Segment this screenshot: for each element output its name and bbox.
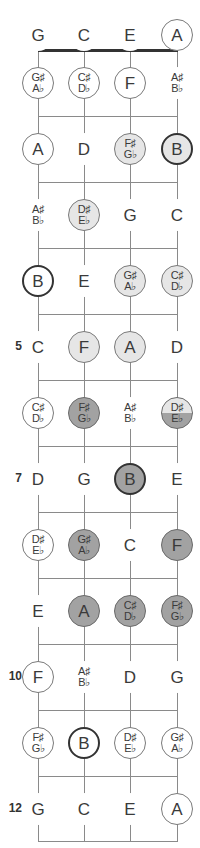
fret-line-8 xyxy=(38,578,178,579)
note-marker-fret0-string-A: A xyxy=(161,19,193,51)
note-label: E xyxy=(124,27,135,44)
note-label: E xyxy=(171,471,182,488)
note-marker-fret12-string-E: E xyxy=(114,793,146,825)
note-flat-label: E♭ xyxy=(32,545,43,556)
note-label: A xyxy=(78,603,89,620)
note-marker-fret10-string-A: G xyxy=(161,661,193,693)
note-flat-label: D♭ xyxy=(171,281,183,292)
note-marker-fret11-string-A: G♯A♭ xyxy=(161,727,193,759)
note-flat-label: B♭ xyxy=(124,413,135,424)
note-label: C xyxy=(124,537,136,554)
note-flat-label: D♭ xyxy=(124,611,136,622)
fret-line-12 xyxy=(38,841,178,842)
note-label: D xyxy=(171,339,183,356)
note-label: G xyxy=(31,801,44,818)
note-marker-fret5-string-G: C xyxy=(22,331,54,363)
note-marker-fret7-string-C: G xyxy=(68,463,100,495)
fretboard-diagram: 571012GCEAG♯A♭C♯D♭FA♯B♭ADF♯G♭BA♯B♭D♯E♭GC… xyxy=(0,0,200,848)
fret-line-3 xyxy=(38,248,178,249)
note-flat-label: A♭ xyxy=(78,545,89,556)
fret-line-5 xyxy=(38,380,178,381)
note-marker-fret12-string-G: G xyxy=(22,793,54,825)
note-flat-label: D♭ xyxy=(32,413,44,424)
note-marker-fret6-string-G: C♯D♭ xyxy=(22,397,54,429)
fret-line-9 xyxy=(38,644,178,645)
note-label: F xyxy=(172,537,182,554)
note-marker-fret2-string-A: B xyxy=(161,133,193,165)
note-marker-fret10-string-E: D xyxy=(114,661,146,693)
fret-line-7 xyxy=(38,512,178,513)
note-marker-fret0-string-G: G xyxy=(22,19,54,51)
note-flat-label: B♭ xyxy=(78,677,89,688)
note-marker-fret6-string-E: A♯B♭ xyxy=(114,397,146,429)
note-flat-label: G♭ xyxy=(32,743,45,754)
note-marker-fret0-string-C: C xyxy=(68,19,100,51)
note-label: E xyxy=(124,801,135,818)
note-label: F xyxy=(79,339,89,356)
note-label: G xyxy=(170,669,183,686)
note-marker-fret12-string-C: C xyxy=(68,793,100,825)
note-marker-fret8-string-G: D♯E♭ xyxy=(22,529,54,561)
note-flat-label: A♭ xyxy=(32,83,43,94)
note-label: C xyxy=(171,207,183,224)
note-marker-fret3-string-G: A♯B♭ xyxy=(22,199,54,231)
note-marker-fret3-string-A: C xyxy=(161,199,193,231)
note-flat-label: B♭ xyxy=(171,83,182,94)
note-flat-label: G♭ xyxy=(124,149,137,160)
note-marker-fret1-string-A: A♯B♭ xyxy=(161,67,193,99)
note-marker-fret5-string-E: A xyxy=(114,331,146,363)
note-marker-fret7-string-E: B xyxy=(114,463,146,495)
note-marker-fret9-string-G: E xyxy=(22,595,54,627)
note-marker-fret2-string-G: A xyxy=(22,133,54,165)
note-marker-fret11-string-E: D♯E♭ xyxy=(114,727,146,759)
fret-line-10 xyxy=(38,710,178,711)
note-label: B xyxy=(32,273,43,290)
note-marker-fret4-string-G: B xyxy=(22,265,54,297)
fret-line-6 xyxy=(38,446,178,447)
fret-line-11 xyxy=(38,776,178,777)
note-marker-fret1-string-C: C♯D♭ xyxy=(68,67,100,99)
note-label: F xyxy=(33,669,43,686)
nut xyxy=(38,49,178,52)
note-flat-label: B♭ xyxy=(32,215,43,226)
note-flat-label: D♭ xyxy=(78,83,90,94)
note-marker-fret9-string-E: C♯D♭ xyxy=(114,595,146,627)
note-flat-label: E♭ xyxy=(124,743,135,754)
note-marker-fret4-string-A: C♯D♭ xyxy=(161,265,193,297)
note-label: E xyxy=(32,603,43,620)
note-marker-fret11-string-C: B xyxy=(68,727,100,759)
note-marker-fret8-string-E: C xyxy=(114,529,146,561)
fret-line-2 xyxy=(38,182,178,183)
note-flat-label: E♭ xyxy=(171,413,182,424)
note-marker-fret9-string-A: F♯G♭ xyxy=(161,595,193,627)
note-label: D xyxy=(32,471,44,488)
note-marker-fret0-string-E: E xyxy=(114,19,146,51)
note-marker-fret6-string-C: F♯G♭ xyxy=(68,397,100,429)
note-marker-fret8-string-A: F xyxy=(161,529,193,561)
note-label: B xyxy=(171,141,182,158)
note-marker-fret3-string-E: G xyxy=(114,199,146,231)
note-flat-label: A♭ xyxy=(171,743,182,754)
note-label: C xyxy=(78,27,90,44)
note-marker-fret3-string-C: D♯E♭ xyxy=(68,199,100,231)
note-marker-fret5-string-C: F xyxy=(68,331,100,363)
note-label: C xyxy=(78,801,90,818)
note-marker-fret6-string-A: D♯E♭ xyxy=(161,397,193,429)
note-marker-fret1-string-G: G♯A♭ xyxy=(22,67,54,99)
fret-line-4 xyxy=(38,314,178,315)
note-marker-fret11-string-G: F♯G♭ xyxy=(22,727,54,759)
note-label: G xyxy=(123,207,136,224)
note-label: A xyxy=(171,27,182,44)
note-marker-fret1-string-E: F xyxy=(114,67,146,99)
note-marker-fret9-string-C: A xyxy=(68,595,100,627)
note-marker-fret10-string-G: F xyxy=(22,661,54,693)
note-label: E xyxy=(78,273,89,290)
note-flat-label: G♭ xyxy=(171,611,184,622)
note-marker-fret8-string-C: G♯A♭ xyxy=(68,529,100,561)
note-marker-fret7-string-A: E xyxy=(161,463,193,495)
note-label: G xyxy=(31,27,44,44)
fret-number-label: 7 xyxy=(2,471,22,485)
note-marker-fret4-string-E: G♯A♭ xyxy=(114,265,146,297)
note-label: G xyxy=(77,471,90,488)
note-label: B xyxy=(124,471,135,488)
